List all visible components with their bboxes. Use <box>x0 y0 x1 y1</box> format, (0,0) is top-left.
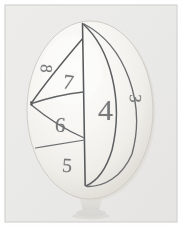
photo-frame: 8 7 6 5 4 3 <box>0 0 182 227</box>
ball-photograph <box>0 0 182 227</box>
photo-grain <box>5 5 177 222</box>
